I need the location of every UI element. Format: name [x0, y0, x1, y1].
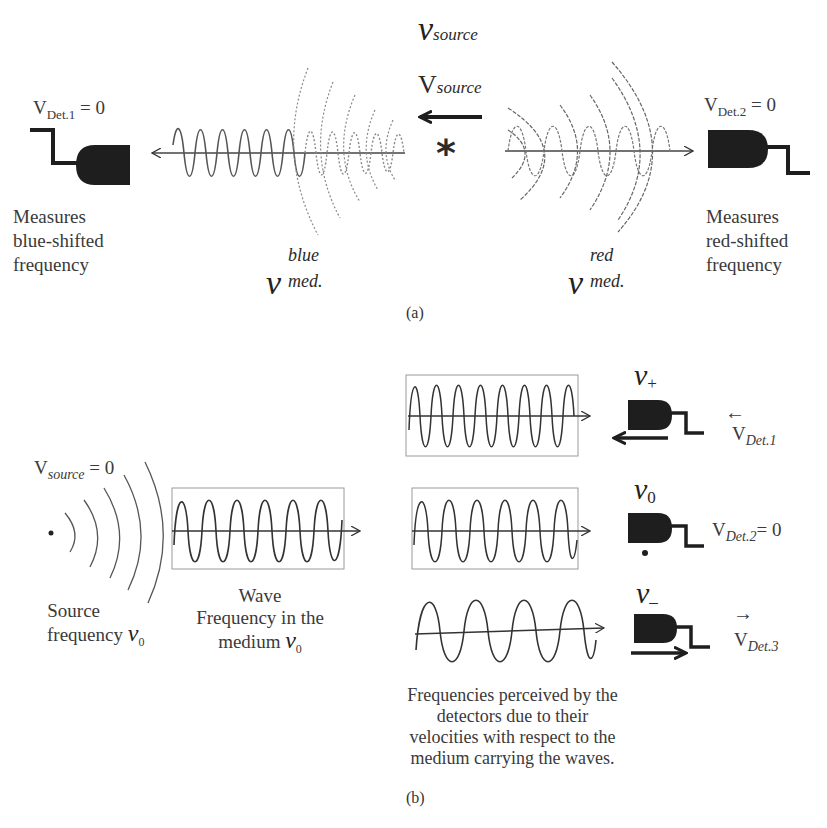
det2-velocity-label: VDet.2= 0 [712, 520, 781, 544]
nu-minus-label: ν– [636, 578, 658, 610]
source-velocity-label: Vsource [418, 72, 481, 98]
detector-2-velocity-label: VDet.2 = 0 [704, 95, 776, 118]
detector-1-icon [30, 130, 130, 185]
blue-shifted-wave [152, 68, 405, 235]
detector-b1-icon [614, 400, 704, 438]
source-frequency-label: νsource [418, 12, 478, 46]
panel-a-caption: (a) [406, 305, 424, 321]
stationary-source [49, 462, 164, 603]
perceived-wave-zero [412, 488, 590, 569]
det1-velocity-label: VDet.1 [732, 424, 776, 448]
source-asterisk: * [436, 134, 456, 172]
source-velocity-zero-label: Vsource = 0 [34, 458, 114, 482]
det3-arrow: → [733, 603, 753, 623]
detector-2-description: Measures red-shifted frequency [706, 205, 788, 277]
nu-zero-label: ν0 [634, 474, 656, 506]
detector-2-icon [708, 130, 810, 173]
red-shifted-wave [505, 62, 693, 232]
perceived-wave-plus [406, 375, 590, 456]
detector-b2-icon [628, 513, 704, 556]
detector-b3-icon [631, 614, 710, 653]
nu-plus-label: ν+ [634, 360, 657, 392]
det3-velocity-label: VDet.3 [734, 630, 778, 654]
det1-arrow: ← [725, 402, 745, 422]
wave-frequency-caption: Wave Frequency in the medium ν0 [180, 585, 340, 660]
perceived-wave-minus [415, 600, 604, 662]
source-frequency-caption: Source frequency ν0 [47, 600, 144, 653]
medium-wave [172, 488, 360, 569]
panel-b-caption: (b) [406, 790, 425, 806]
detector-1-velocity-label: VDet.1 = 0 [33, 98, 105, 121]
perceived-frequencies-caption: Frequencies perceived by the detectors d… [380, 685, 645, 769]
detector-1-description: Measures blue-shifted frequency [13, 205, 104, 277]
